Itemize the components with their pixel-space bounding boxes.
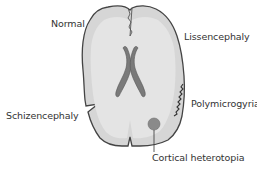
brain-diagram: Normal Lissencephaly Schizencephaly Poly…	[0, 0, 257, 170]
label-polymicrogyria: Polymicrogyria	[191, 98, 257, 109]
label-normal: Normal	[51, 18, 85, 29]
heterotopia-nodule	[148, 118, 160, 130]
label-lissencephaly: Lissencephaly	[184, 31, 250, 42]
label-cortical-heterotopia: Cortical heterotopia	[152, 152, 244, 163]
brain-section-illustration	[0, 0, 257, 170]
label-schizencephaly: Schizencephaly	[6, 110, 79, 121]
